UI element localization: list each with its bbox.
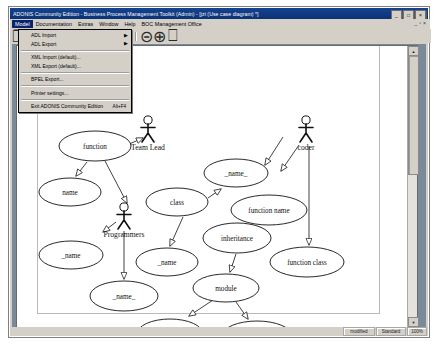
actor-body-icon [299, 124, 313, 142]
actor-head-icon [302, 116, 310, 124]
diagram-shapes: functionnameclass_name_function nameinhe… [39, 116, 344, 327]
use-case-name-bottom[interactable]: _name_ [137, 319, 203, 327]
use-case-label: function class [287, 259, 327, 267]
menu-option-printer-settings[interactable]: Printer settings... [19, 89, 131, 98]
use-case-label: _name [60, 252, 80, 260]
menu-option-label: Printer settings... [31, 90, 69, 96]
submenu-arrow-icon: ▶ [124, 41, 128, 46]
use-case-name[interactable]: name [39, 178, 101, 206]
menu-separator [21, 99, 129, 101]
use-case-module[interactable]: module [193, 274, 259, 302]
menu-separator [21, 50, 129, 52]
menu-option-adl-export[interactable]: ADL Export ▶ [19, 40, 131, 49]
application-window: ADONIS Community Edition - Business Proc… [8, 6, 430, 338]
use-case-name-left[interactable]: _name [39, 241, 103, 269]
use-case-function-class[interactable]: function class [270, 247, 344, 277]
submenu-arrow-icon: ▶ [124, 33, 128, 38]
use-case-ellipse[interactable] [137, 319, 203, 327]
use-case-label: name [62, 189, 78, 197]
menu-separator [21, 85, 129, 87]
status-notebook: Standard [376, 327, 406, 336]
use-case-label: function name [248, 207, 289, 215]
use-case-function-name[interactable]: function name [231, 195, 307, 225]
actor-body-icon [117, 211, 131, 229]
menu-option-adl-import[interactable]: ADL Import ▶ [19, 31, 131, 40]
mdi-close-button[interactable]: × [423, 20, 426, 26]
mdi-restore-button[interactable]: ▫ [419, 20, 421, 26]
title-bar: ADONIS Community Edition - Business Proc… [10, 8, 428, 19]
use-case-name-u1[interactable]: _name_ [204, 159, 268, 187]
use-case-name-mid[interactable]: _name [136, 248, 198, 276]
status-zoom-level: 100% [407, 327, 427, 336]
menu-option-xml-import[interactable]: XML Import (default)... [19, 53, 131, 62]
scrollbar-thumb[interactable] [408, 55, 419, 175]
use-case-label: _name [156, 259, 176, 267]
actor-coder[interactable]: coder [298, 116, 315, 152]
canvas-vertical-scrollbar[interactable]: ▲ ▼ [407, 46, 417, 327]
menu-option-label: XML Import (default)... [31, 54, 81, 60]
actor-programmers[interactable]: Programmers [104, 203, 145, 239]
menu-separator [21, 72, 129, 74]
use-case-inheritance[interactable]: inheritance [203, 223, 271, 253]
use-case-label: inheritance [221, 235, 253, 243]
window-title: ADONIS Community Edition - Business Proc… [10, 11, 259, 17]
menu-option-label: BPEL Export... [31, 76, 64, 82]
actor-label: coder [298, 143, 315, 152]
menu-option-exit[interactable]: Exit ADONIS Community Edition Alt+F4 [19, 102, 131, 111]
actor-label: Programmers [104, 230, 145, 239]
menu-option-label: XML Export (default)... [31, 63, 81, 69]
status-modified: modified [343, 327, 375, 336]
menu-option-shortcut: Alt+F4 [113, 104, 126, 109]
actor-body-icon [141, 124, 155, 142]
print-preview-icon[interactable]: ⎕ [167, 31, 178, 42]
use-case-label: _name_ [112, 293, 136, 301]
status-bar: modified Standard 100% [10, 327, 428, 336]
use-case-label: _name_ [224, 170, 248, 178]
use-case-class[interactable]: class [146, 188, 208, 216]
use-case-name-low[interactable]: _name_ [90, 281, 158, 311]
scroll-down-arrow-icon[interactable]: ▼ [408, 317, 419, 327]
actor-head-icon [120, 203, 128, 211]
menu-option-bpel-export[interactable]: BPEL Export... [19, 75, 131, 84]
actor-team-lead[interactable]: Team Lead [131, 116, 165, 152]
use-case-label: class [170, 199, 184, 207]
actor-head-icon [144, 116, 152, 124]
zoom-out-icon[interactable]: ⊝ [141, 31, 152, 42]
toolbar-separator [135, 32, 137, 41]
menu-option-xml-export[interactable]: XML Export (default)... [19, 62, 131, 71]
use-case-label: function [83, 143, 107, 151]
mdi-minimize-button[interactable]: _ [415, 20, 418, 26]
use-case-function[interactable]: function [59, 131, 131, 161]
mdi-child-controls: _ ▫ × [415, 20, 426, 26]
menu-option-label: Exit ADONIS Community Edition [31, 103, 103, 109]
zoom-in-icon[interactable]: ⊕ [154, 31, 165, 42]
screenshot-root: ADONIS Community Edition - Business Proc… [0, 0, 436, 350]
model-dropdown-menu[interactable]: ADL Import ▶ ADL Export ▶ XML Import (de… [18, 29, 132, 113]
use-case-label: module [215, 285, 237, 293]
menu-option-label: ADL Import [31, 32, 56, 38]
actor-label: Team Lead [131, 143, 165, 152]
menu-option-label: ADL Export [31, 41, 56, 47]
